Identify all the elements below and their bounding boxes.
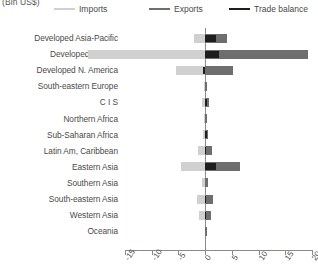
bar-trade-balance bbox=[203, 67, 205, 74]
chart-legend: Imports Exports Trade balance bbox=[0, 4, 318, 18]
bar-exports bbox=[205, 146, 211, 155]
legend-label-exports: Exports bbox=[174, 4, 203, 14]
bar-trade-balance bbox=[205, 163, 216, 170]
legend-label-imports: Imports bbox=[79, 4, 107, 14]
axis-tick-label: 15 bbox=[283, 250, 295, 262]
axis-tick-label: -5 bbox=[176, 251, 187, 262]
plot-area: Developed Asia-PacificDeveloped EuropeDe… bbox=[0, 28, 318, 250]
legend-swatch-trade-balance bbox=[229, 8, 250, 10]
bar-imports bbox=[194, 34, 205, 43]
bar-trade-balance bbox=[205, 147, 207, 154]
bar-trade-balance bbox=[205, 196, 207, 203]
legend-swatch-imports bbox=[54, 8, 75, 10]
bar-imports bbox=[176, 66, 205, 75]
bar-trade-balance bbox=[205, 99, 207, 106]
legend-item-imports: Imports bbox=[54, 4, 107, 14]
bar-trade-balance bbox=[205, 212, 207, 219]
bar-exports bbox=[205, 178, 208, 187]
bar-trade-balance bbox=[205, 51, 219, 58]
axis-tick-label: 5 bbox=[230, 253, 240, 262]
bar-exports bbox=[205, 82, 207, 91]
bars-layer bbox=[0, 28, 318, 250]
value-axis: -15-10-505101520 bbox=[0, 250, 318, 280]
axis-tick-label: 0 bbox=[203, 253, 213, 262]
legend-swatch-exports bbox=[149, 8, 170, 10]
bar-imports bbox=[88, 50, 206, 59]
bar-exports bbox=[205, 195, 213, 204]
bar-exports bbox=[205, 50, 308, 59]
bar-exports bbox=[205, 66, 233, 75]
bar-imports bbox=[181, 162, 206, 171]
bar-trade-balance bbox=[205, 131, 207, 138]
bar-exports bbox=[205, 114, 207, 123]
trade-bar-chart: (Bln US$) Imports Exports Trade balance … bbox=[0, 0, 318, 280]
legend-item-trade-balance: Trade balance bbox=[229, 4, 308, 14]
bar-exports bbox=[205, 227, 207, 236]
bar-trade-balance bbox=[205, 35, 216, 42]
legend-item-exports: Exports bbox=[149, 4, 203, 14]
legend-label-trade-balance: Trade balance bbox=[254, 4, 308, 14]
